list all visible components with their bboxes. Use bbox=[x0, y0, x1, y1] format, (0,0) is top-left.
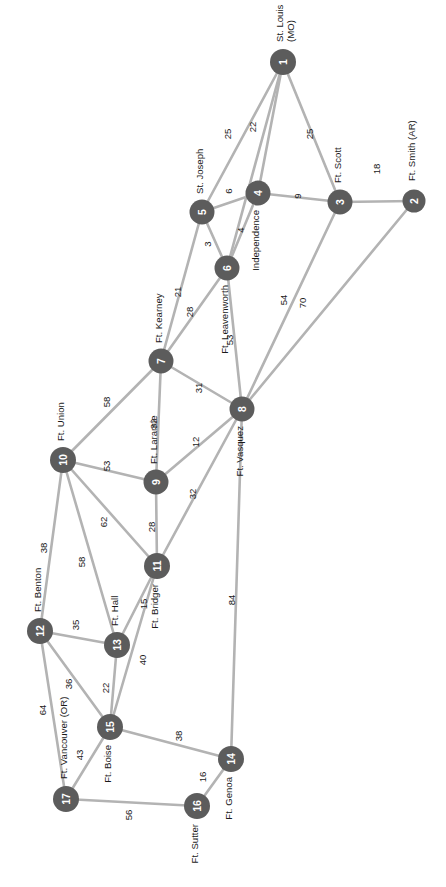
node-5[interactable]: 5 bbox=[190, 200, 215, 225]
node-14[interactable]: 14 bbox=[218, 746, 244, 772]
edge-weight-15-17: 43 bbox=[74, 750, 85, 761]
city-name-line: Ft. Hall bbox=[109, 596, 120, 626]
node-3[interactable]: 3 bbox=[328, 190, 353, 215]
city-name-14: Ft. Genoa bbox=[223, 776, 234, 819]
edge-weight-8-14: 84 bbox=[226, 594, 237, 605]
city-name-12: Ft. Benton bbox=[32, 568, 43, 612]
edge-weight-16-17: 56 bbox=[123, 810, 134, 821]
edge-1-4 bbox=[258, 62, 283, 193]
edge-weight-14-16: 16 bbox=[197, 772, 208, 783]
edge-weight-8-11: 32 bbox=[187, 489, 198, 500]
node-label-12: 12 bbox=[34, 625, 46, 637]
edge-weight-10-11: 62 bbox=[98, 517, 109, 528]
city-name-line: Independence bbox=[250, 210, 261, 271]
edge-weight-9-10: 53 bbox=[101, 461, 112, 472]
node-2[interactable]: 2 bbox=[403, 190, 426, 213]
city-name-line: Ft. Bridger bbox=[149, 583, 160, 629]
city-name-4: Independence bbox=[250, 210, 261, 271]
edge-weight-2-8: 70 bbox=[297, 298, 308, 309]
edge-weight-8-9: 12 bbox=[190, 437, 201, 448]
edge-7-10 bbox=[63, 361, 161, 460]
node-label-17: 17 bbox=[60, 793, 72, 805]
edge-2-8 bbox=[242, 201, 414, 409]
edge-weight-1-3: 25 bbox=[304, 129, 315, 140]
node-label-5: 5 bbox=[196, 209, 208, 215]
node-label-13: 13 bbox=[111, 639, 123, 651]
node-6[interactable]: 6 bbox=[215, 256, 240, 281]
node-label-8: 8 bbox=[236, 406, 248, 412]
city-name-line: Ft. Vasquez bbox=[234, 426, 245, 477]
edge-10-11 bbox=[63, 460, 157, 566]
node-17[interactable]: 17 bbox=[53, 786, 79, 812]
edge-1-5 bbox=[202, 62, 283, 212]
edge-weight-4-6: 4 bbox=[235, 227, 246, 233]
edge-weight-11-15: 40 bbox=[137, 655, 148, 666]
edge-weight-4-5: 6 bbox=[223, 188, 234, 193]
edge-5-7 bbox=[161, 212, 202, 361]
edge-weight-1-6: 22 bbox=[247, 122, 258, 133]
city-name-15: Ft. Boise bbox=[102, 745, 113, 783]
city-name-line: Ft. Scott bbox=[332, 147, 343, 183]
city-name-line: Ft. Genoa bbox=[223, 776, 234, 819]
edge-weight-10-13: 58 bbox=[76, 557, 87, 568]
node-label-7: 7 bbox=[155, 358, 167, 364]
edge-12-15 bbox=[40, 631, 110, 727]
edge-16-17 bbox=[66, 799, 197, 806]
city-name-line: Ft. Boise bbox=[102, 745, 113, 783]
node-9[interactable]: 9 bbox=[144, 470, 169, 495]
node-label-2: 2 bbox=[408, 198, 420, 204]
city-name-11: Ft. Bridger bbox=[149, 583, 160, 629]
node-10[interactable]: 10 bbox=[50, 447, 76, 473]
city-name-line: Ft. Leavenworth bbox=[219, 285, 230, 354]
node-label-1: 1 bbox=[277, 59, 289, 65]
node-label-3: 3 bbox=[334, 199, 346, 205]
city-name-line: Ft. Benton bbox=[32, 568, 43, 612]
edge-weight-7-10: 58 bbox=[101, 397, 112, 408]
city-name-1: St. Louis(MO) bbox=[274, 4, 296, 42]
node-13[interactable]: 13 bbox=[104, 632, 130, 658]
city-name-line: Ft. Vancouver (OR) bbox=[58, 697, 69, 779]
city-name-line: Ft. Sutter bbox=[189, 823, 200, 863]
edge-8-11 bbox=[157, 409, 242, 566]
node-label-6: 6 bbox=[221, 265, 233, 271]
edge-weight-5-6: 3 bbox=[202, 241, 213, 246]
node-11[interactable]: 11 bbox=[144, 553, 170, 579]
city-name-line: St. Joseph bbox=[194, 149, 205, 194]
node-7[interactable]: 7 bbox=[149, 349, 174, 374]
edge-weight-2-3: 18 bbox=[371, 164, 382, 175]
node-label-14: 14 bbox=[225, 753, 237, 765]
node-15[interactable]: 15 bbox=[97, 714, 123, 740]
node-8[interactable]: 8 bbox=[230, 397, 255, 422]
edge-weight-12-13: 35 bbox=[70, 620, 81, 631]
network-graph-canvas: 2522251870954643212853313258123284532862… bbox=[0, 0, 446, 887]
edge-weight-12-15: 36 bbox=[63, 679, 74, 690]
city-name-line: Ft. Union bbox=[55, 402, 66, 441]
network-graph-figure: 2522251870954643212853313258123284532862… bbox=[0, 0, 446, 887]
edge-weight-9-11: 28 bbox=[146, 522, 157, 533]
node-label-10: 10 bbox=[57, 454, 69, 466]
city-name-10: Ft. Union bbox=[55, 402, 66, 441]
node-16[interactable]: 16 bbox=[184, 793, 210, 819]
edge-weight-3-8: 54 bbox=[278, 294, 289, 305]
node-label-4: 4 bbox=[252, 190, 264, 196]
edge-weight-7-8: 31 bbox=[193, 383, 204, 394]
edge-14-15 bbox=[110, 727, 231, 759]
node-1[interactable]: 1 bbox=[270, 49, 296, 75]
city-name-9: Ft. Laramie bbox=[148, 415, 159, 464]
edge-weight-12-17: 64 bbox=[37, 704, 48, 715]
edge-weight-13-15: 22 bbox=[100, 683, 111, 694]
node-label-16: 16 bbox=[191, 800, 203, 812]
city-name-2: Ft. Smith (AR) bbox=[406, 120, 417, 181]
edge-weight-5-7: 21 bbox=[172, 287, 183, 298]
node-12[interactable]: 12 bbox=[27, 618, 53, 644]
city-name-17: Ft. Vancouver (OR) bbox=[58, 697, 69, 779]
node-4[interactable]: 4 bbox=[246, 181, 271, 206]
edge-weight-6-7: 28 bbox=[184, 307, 195, 318]
node-label-9: 9 bbox=[150, 479, 162, 485]
city-name-6: Ft. Leavenworth bbox=[219, 285, 230, 354]
city-name-16: Ft. Sutter bbox=[189, 823, 200, 863]
node-label-15: 15 bbox=[104, 721, 116, 733]
city-name-line: Ft. Laramie bbox=[148, 415, 159, 464]
city-name-5: St. Joseph bbox=[194, 149, 205, 194]
city-name-line: St. Louis bbox=[274, 4, 285, 42]
